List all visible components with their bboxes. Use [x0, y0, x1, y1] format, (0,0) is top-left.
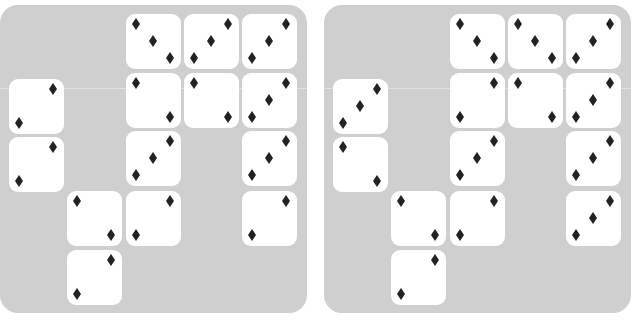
diamond-icon	[456, 111, 464, 123]
diamond-icon	[132, 77, 140, 89]
diamond-icon	[572, 169, 580, 181]
diamond-icon	[166, 195, 174, 207]
diamond-icon	[514, 18, 522, 30]
diamond-icon	[589, 212, 597, 224]
diamond-icon	[572, 52, 580, 64]
domino-tile[interactable]	[333, 137, 388, 192]
diamond-icon	[456, 18, 464, 30]
diamond-icon	[224, 18, 232, 30]
domino-tile[interactable]	[450, 73, 505, 128]
diamond-icon	[265, 152, 273, 164]
diamond-icon	[15, 117, 23, 129]
domino-tile[interactable]	[391, 250, 446, 305]
diamond-icon	[373, 175, 381, 187]
domino-tile[interactable]	[242, 191, 297, 246]
diamond-icon	[606, 18, 614, 30]
diamond-icon	[572, 229, 580, 241]
domino-tile[interactable]	[566, 14, 621, 69]
diamond-icon	[132, 229, 140, 241]
domino-tile[interactable]	[184, 14, 239, 69]
diamond-icon	[397, 195, 405, 207]
diamond-icon	[572, 111, 580, 123]
diamond-icon	[190, 52, 198, 64]
diamond-icon	[589, 152, 597, 164]
right-puzzle-board	[324, 5, 631, 313]
diamond-icon	[606, 135, 614, 147]
domino-tile[interactable]	[126, 73, 181, 128]
domino-tile[interactable]	[450, 14, 505, 69]
diamond-icon	[431, 254, 439, 266]
diamond-icon	[589, 94, 597, 106]
domino-tile[interactable]	[67, 191, 122, 246]
left-board-caption	[0, 322, 307, 332]
diamond-icon	[606, 195, 614, 207]
diamond-icon	[514, 77, 522, 89]
diamond-icon	[356, 100, 364, 112]
domino-tile[interactable]	[242, 131, 297, 186]
diamond-icon	[456, 169, 464, 181]
domino-tile[interactable]	[126, 14, 181, 69]
diamond-icon	[248, 229, 256, 241]
diamond-icon	[473, 152, 481, 164]
domino-tile[interactable]	[242, 73, 297, 128]
diamond-icon	[107, 229, 115, 241]
diamond-icon	[49, 141, 57, 153]
diamond-icon	[49, 83, 57, 95]
diamond-icon	[132, 18, 140, 30]
diamond-icon	[248, 111, 256, 123]
domino-tile[interactable]	[566, 191, 621, 246]
domino-tile[interactable]	[126, 191, 181, 246]
domino-tile[interactable]	[450, 191, 505, 246]
diamond-icon	[149, 152, 157, 164]
diamond-icon	[190, 77, 198, 89]
domino-tile[interactable]	[126, 131, 181, 186]
diamond-icon	[548, 52, 556, 64]
diamond-icon	[339, 117, 347, 129]
diamond-icon	[132, 169, 140, 181]
domino-tile[interactable]	[9, 79, 64, 134]
diamond-icon	[282, 195, 290, 207]
diamond-icon	[107, 254, 115, 266]
diamond-icon	[282, 18, 290, 30]
diamond-icon	[490, 195, 498, 207]
diamond-icon	[397, 288, 405, 300]
domino-tile[interactable]	[450, 131, 505, 186]
diamond-icon	[490, 52, 498, 64]
domino-tile[interactable]	[508, 14, 563, 69]
domino-tile[interactable]	[67, 250, 122, 305]
domino-tile[interactable]	[391, 191, 446, 246]
diamond-icon	[456, 229, 464, 241]
diamond-icon	[248, 169, 256, 181]
diamond-icon	[265, 94, 273, 106]
right-board-caption	[324, 322, 631, 332]
diamond-icon	[265, 35, 273, 47]
domino-tile[interactable]	[566, 73, 621, 128]
domino-tile[interactable]	[242, 14, 297, 69]
diamond-icon	[166, 52, 174, 64]
diamond-icon	[473, 35, 481, 47]
diamond-icon	[73, 195, 81, 207]
diamond-icon	[490, 77, 498, 89]
diamond-icon	[207, 35, 215, 47]
diamond-icon	[589, 35, 597, 47]
diamond-icon	[224, 111, 232, 123]
diamond-icon	[15, 175, 23, 187]
domino-tile[interactable]	[333, 79, 388, 134]
diamond-icon	[73, 288, 81, 300]
diamond-icon	[166, 111, 174, 123]
domino-tile[interactable]	[9, 137, 64, 192]
diamond-icon	[149, 35, 157, 47]
diamond-icon	[548, 111, 556, 123]
left-puzzle-board	[0, 5, 307, 313]
diamond-icon	[373, 83, 381, 95]
diamond-icon	[339, 141, 347, 153]
domino-tile[interactable]	[508, 73, 563, 128]
diamond-icon	[431, 229, 439, 241]
diamond-icon	[248, 52, 256, 64]
domino-tile[interactable]	[566, 131, 621, 186]
diamond-icon	[606, 77, 614, 89]
domino-tile[interactable]	[184, 73, 239, 128]
diamond-icon	[282, 77, 290, 89]
diamond-icon	[531, 35, 539, 47]
diamond-icon	[166, 135, 174, 147]
